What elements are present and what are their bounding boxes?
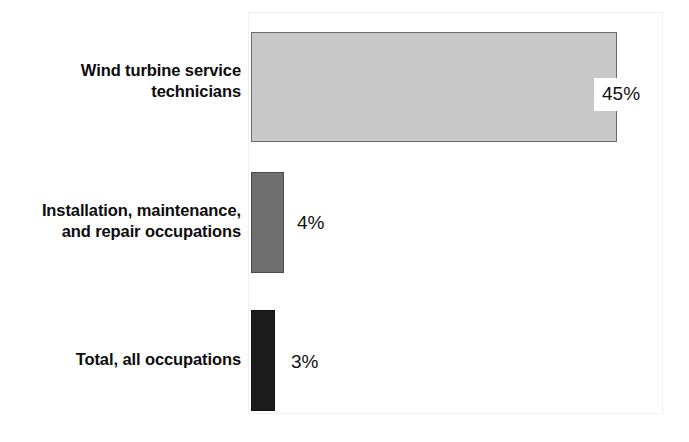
- value-label-total-all-occupations: 3%: [291, 352, 318, 371]
- category-label-line-2: and repair occupations: [0, 221, 241, 242]
- bar-total-all-occupations: [251, 310, 275, 411]
- bar-chart: Wind turbine service technicians Install…: [0, 0, 689, 442]
- category-label-line-1: Total, all occupations: [0, 349, 241, 370]
- value-label-wind-turbine-service-technicians: 45%: [594, 78, 648, 111]
- category-label-wind-turbine-service-technicians: Wind turbine service technicians: [0, 60, 241, 102]
- value-label-installation-maintenance-repair-occupations: 4%: [297, 213, 324, 232]
- category-label-line-1: Installation, maintenance,: [0, 200, 241, 221]
- category-label-line-2: technicians: [0, 81, 241, 102]
- category-label-total-all-occupations: Total, all occupations: [0, 349, 241, 370]
- category-label-installation-maintenance-repair-occupations: Installation, maintenance, and repair oc…: [0, 200, 241, 242]
- bar-wind-turbine-service-technicians: [251, 32, 617, 142]
- category-label-line-1: Wind turbine service: [0, 60, 241, 81]
- bar-installation-maintenance-repair-occupations: [251, 172, 284, 273]
